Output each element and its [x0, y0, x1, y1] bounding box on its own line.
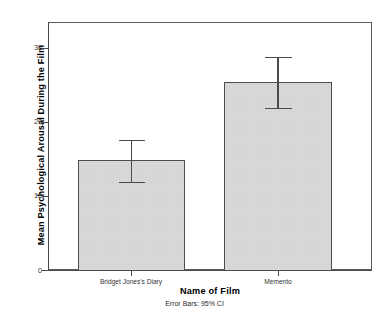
x-tick-mark-bridget-jones-diary: [131, 271, 132, 276]
y-tick-label-30: 30: [12, 44, 42, 51]
y-axis-line: [48, 22, 49, 271]
y-axis-title: Mean Psychological Arousal During the Fi…: [36, 20, 46, 270]
x-tick-mark-memento: [278, 271, 279, 276]
x-tick-label-bridget-jones-diary: Bridget Jones's Diary: [71, 278, 191, 285]
y-tick-mark-30: [42, 48, 48, 49]
x-axis-title: Name of Film: [48, 286, 372, 296]
x-tick-label-memento: Memento: [218, 278, 338, 285]
y-tick-label-0: 0: [12, 267, 42, 274]
error-bars-footnote: Error Bars: 95% CI: [0, 300, 389, 307]
y-tick-label-10: 10: [12, 192, 42, 199]
error-bar-lower-cap-bridget-jones-diary: [119, 182, 145, 184]
error-bar-lower-cap-memento: [265, 108, 292, 110]
error-bar-upper-cap-bridget-jones-diary: [119, 140, 145, 142]
error-bar-stem-memento: [277, 57, 278, 108]
error-bar-upper-cap-memento: [265, 57, 292, 59]
y-tick-mark-10: [42, 196, 48, 197]
y-tick-mark-0: [42, 270, 48, 271]
error-bar-stem-bridget-jones-diary: [131, 140, 132, 182]
y-tick-mark-20: [42, 122, 48, 123]
bar-memento: [224, 82, 332, 271]
bar-chart: Mean Psychological Arousal During the Fi…: [0, 0, 389, 313]
y-tick-label-20: 20: [12, 118, 42, 125]
